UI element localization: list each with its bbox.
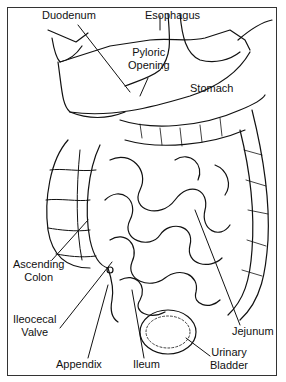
label-pyloric-line1: Pyloric [128,46,170,59]
small-intestine-loops [105,157,230,315]
urinary-bladder [140,310,196,354]
label-pyloric-line2: Opening [128,59,170,72]
label-ascending-colon: Ascending Colon [13,258,64,284]
label-pyloric-opening: Pyloric Opening [128,46,170,72]
label-esophagus: Esophagus [145,9,200,22]
duodenum-shape [48,30,125,117]
appendix-shape [107,267,118,322]
label-bladder-line2: Bladder [210,359,248,372]
label-ascending-line2: Colon [13,271,64,284]
ascending-colon [46,140,108,268]
label-ileocecal-line2: Valve [13,326,56,339]
label-ileocecal-line1: Ileocecal [13,313,56,326]
label-ascending-line1: Ascending [13,258,64,271]
label-ileum: Ileum [133,358,160,371]
label-urinary-bladder: Urinary Bladder [210,346,248,372]
label-appendix: Appendix [56,358,102,371]
transverse-colon [120,95,265,146]
label-stomach: Stomach [190,82,233,95]
label-duodenum: Duodenum [42,9,96,22]
descending-colon [228,110,268,320]
label-bladder-line1: Urinary [210,346,248,359]
label-jejunum: Jejunum [232,325,274,338]
label-ileocecal-valve: Ileocecal Valve [13,313,56,339]
